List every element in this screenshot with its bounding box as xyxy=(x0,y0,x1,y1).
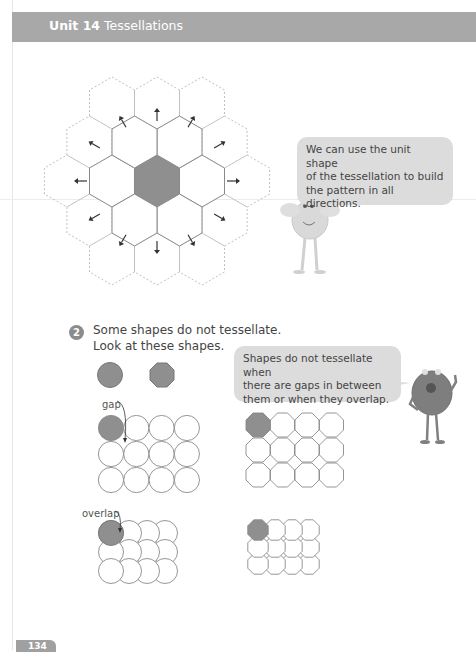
grid-octagon-gap xyxy=(271,463,295,487)
grid-circle-gap xyxy=(98,467,123,492)
grid-octagon-gap xyxy=(246,413,270,437)
grid-circle-gap xyxy=(174,441,199,466)
grid-circle-gap xyxy=(124,441,149,466)
grid-octagon-overlap xyxy=(248,520,268,540)
grid-octagon-gap xyxy=(295,463,319,487)
character-2-leg xyxy=(436,413,438,440)
shaded-circle-overlap xyxy=(99,521,124,546)
grid-octagon-gap xyxy=(295,438,319,462)
grid-circle-gap xyxy=(174,415,199,440)
grid-octagon-gap xyxy=(246,463,270,487)
character-2-foot xyxy=(435,440,445,444)
grid-octagon-gap xyxy=(320,438,344,462)
grid-octagon-gap xyxy=(320,413,344,437)
grid-circle-gap xyxy=(149,441,174,466)
character-2-body xyxy=(412,371,452,415)
character-2-foot xyxy=(420,440,430,444)
sample-circle xyxy=(98,363,123,388)
sample-octagon xyxy=(150,363,174,387)
grid-circle-overlap xyxy=(99,559,124,584)
arrow-head-icon xyxy=(123,438,127,443)
bubble-tail xyxy=(383,380,410,388)
character-2-arm xyxy=(450,375,456,392)
character-2-leg xyxy=(427,413,428,440)
character-2-eye xyxy=(435,369,441,375)
grid-circle-gap xyxy=(124,415,149,440)
grid-circle-gap xyxy=(174,467,199,492)
character-2-nose xyxy=(426,383,436,393)
grid-circle-gap xyxy=(98,441,123,466)
grid-octagon-gap xyxy=(271,438,295,462)
grid-octagon-gap xyxy=(271,413,295,437)
grid-circle-gap xyxy=(98,415,123,440)
grid-circle-gap xyxy=(124,467,149,492)
grid-circle-gap xyxy=(149,415,174,440)
grid-octagon-gap xyxy=(246,438,270,462)
grid-octagon-gap xyxy=(320,463,344,487)
page-number: 134 xyxy=(28,641,47,651)
grid-octagon-gap xyxy=(295,413,319,437)
character-2-eye xyxy=(422,369,428,375)
grid-circle-gap xyxy=(149,467,174,492)
